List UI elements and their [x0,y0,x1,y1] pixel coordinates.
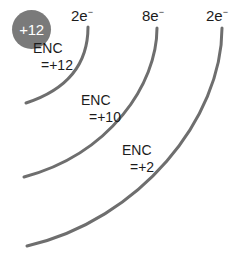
shell-3-enc-value: =+2 [122,159,154,176]
shell-1-electron-label: 2e− [71,8,93,23]
shell-2-enc-title: ENC [81,92,121,109]
shell-1-electron-symbol: e [79,7,87,24]
shell-1-enc-title: ENC [33,40,73,57]
shell-3-electron-charge: − [223,7,228,17]
shell-3-electron-label: 2e− [206,8,228,23]
shell-2-electron-charge: − [159,7,164,17]
shell-diagram: +12 2e− 8e− 2e− ENC =+12 ENC =+10 ENC =+… [0,0,245,266]
shell-2-electron-label: 8e− [142,8,164,23]
shell-3-enc-title: ENC [122,142,154,159]
shell-2-enc-label: ENC =+10 [81,92,121,126]
shell-1-enc-label: ENC =+12 [33,40,73,74]
shell-2-enc-value: =+10 [81,109,121,126]
shell-1-electron-charge: − [88,7,93,17]
shell-2-electron-symbol: e [150,7,158,24]
shell-3-electron-symbol: e [214,7,222,24]
shell-3-enc-label: ENC =+2 [122,142,154,176]
nucleus-charge-label: +12 [19,22,44,37]
shell-1-enc-value: =+12 [33,57,73,74]
